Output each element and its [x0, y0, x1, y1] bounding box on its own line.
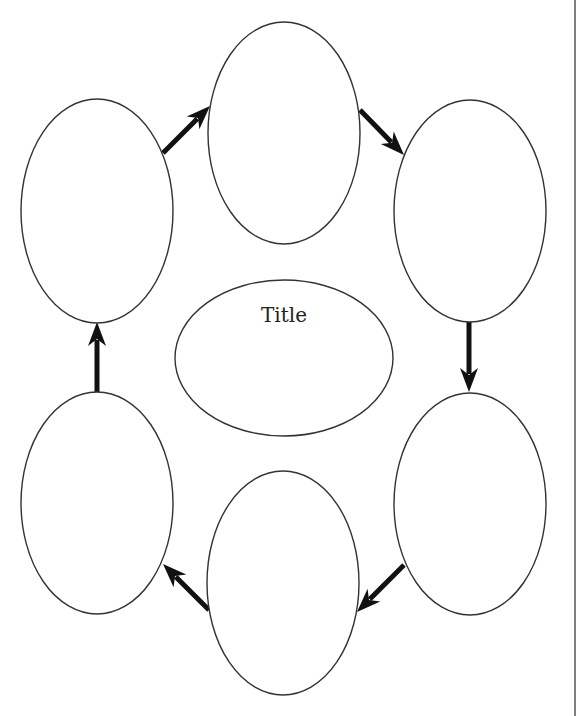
- node-ellipse: [207, 471, 359, 695]
- cycle-diagram: Title: [0, 0, 584, 716]
- arrow-bottom-left-to-top-left: [88, 322, 106, 392]
- node-ellipse: [394, 100, 546, 322]
- cycle-node-bottom-right: [394, 393, 546, 615]
- arrow-shaft: [370, 565, 404, 599]
- arrow-shaft: [176, 577, 209, 610]
- arrow-top-right-to-bottom-right: [460, 322, 478, 392]
- center-node: Title: [175, 280, 393, 436]
- cycle-node-top: [208, 22, 360, 244]
- cycle-node-bottom: [207, 471, 359, 695]
- arrow-bottom-to-bottom-left: [163, 564, 209, 610]
- arrow-bottom-right-to-bottom: [357, 565, 404, 612]
- arrow-shaft: [163, 119, 197, 153]
- cycle-node-bottom-left: [21, 392, 173, 614]
- node-ellipse: [21, 392, 173, 614]
- arrow-top-to-top-right: [360, 110, 404, 155]
- cycle-node-top-right: [394, 100, 546, 322]
- node-ellipse: [394, 393, 546, 615]
- node-ellipse: [208, 22, 360, 244]
- node-ellipse: [21, 99, 173, 323]
- arrow-top-left-to-top: [163, 106, 210, 153]
- center-title-label: Title: [261, 303, 307, 327]
- arrow-shaft: [360, 110, 391, 142]
- cycle-node-top-left: [21, 99, 173, 323]
